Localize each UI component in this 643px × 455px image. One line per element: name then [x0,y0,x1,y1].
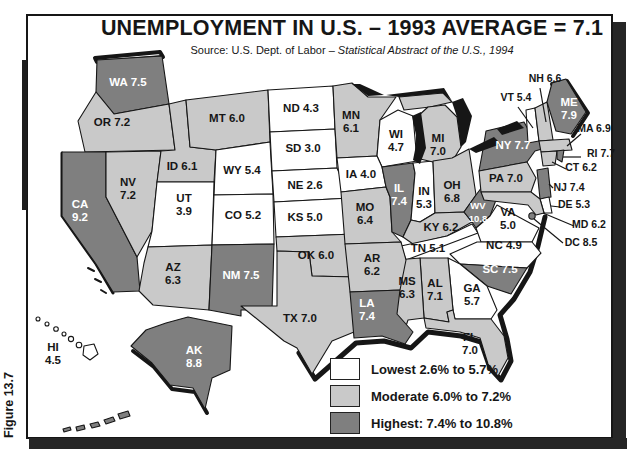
state-label-nd: ND 4.3 [283,102,319,114]
legend-label: Lowest 2.6% to 5.7% [371,362,498,377]
state-label-mn: MN6.1 [342,109,360,134]
state-label-wa: WA 7.5 [109,76,147,88]
state-label-ia: IA 4.0 [346,168,376,180]
state-label-ut: UT3.9 [176,192,192,217]
state-label-nm: NM 7.5 [222,269,260,281]
state-label-de: DE 5.3 [558,198,590,210]
state-label-ks: KS 5.0 [287,211,322,223]
state-label-tx: TX 7.0 [283,312,317,324]
us-choropleth-map: WA 7.5OR 7.2CA9.2NV7.2ID 6.1MT 6.0WY 5.4… [0,0,643,455]
state-ri [557,150,564,162]
state-label-wi: WI4.7 [388,128,404,153]
state-label-ky: KY 6.2 [424,221,459,233]
source-line: Source: U.S. Dept. of Labor – Statistica… [92,44,612,56]
state-nj [537,168,551,199]
legend-item-highest: Highest: 7.4% to 10.8% [330,412,513,434]
hi-island [45,322,49,326]
state-label-va: VA5.0 [500,206,516,231]
state-label-ok: OK 6.0 [298,249,334,261]
state-label-dc: DC 8.5 [565,236,598,248]
state-label-co: CO 5.2 [225,209,261,221]
hi-island [54,327,59,332]
legend-label: Highest: 7.4% to 10.8% [371,416,513,431]
state-label-me: ME7.9 [560,96,578,121]
state-label-ms: MS6.3 [398,275,416,300]
state-label-ct: CT 6.2 [565,161,597,173]
legend-item-lowest: Lowest 2.6% to 5.7% [330,358,513,380]
source-citation: Statistical Abstract of the U.S., 1994 [338,44,514,56]
state-dc [529,213,535,219]
state-label-sc: SC 7.5 [482,263,518,275]
state-label-mi: MI7.0 [430,132,446,157]
aleutian-islands [63,411,130,432]
map-legend: Lowest 2.6% to 5.7% Moderate 6.0% to 7.2… [330,358,513,439]
hi-big-island [83,344,98,360]
hi-island [36,317,40,321]
state-label-tn: TN 5.1 [411,242,446,254]
state-label-la: LA7.4 [359,297,376,322]
state-label-nj: NJ 7.4 [554,181,585,193]
state-label-md: MD 6.2 [572,218,606,230]
page: { "figure_label": "Figure 13.7", "title"… [0,0,643,455]
hi-island [68,336,73,341]
legend-item-moderate: Moderate 6.0% to 7.2% [330,385,513,407]
state-label-nh: NH 6.6 [529,72,562,84]
state-label-id: ID 6.1 [167,160,198,172]
legend-label: Moderate 6.0% to 7.2% [371,389,511,404]
state-label-ca: CA9.2 [72,198,89,223]
state-label-mt: MT 6.0 [209,112,245,124]
state-label-ri: RI 7.7 [587,147,615,159]
state-label-nc: NC 4.9 [486,239,522,251]
state-label-mo: MO6.4 [356,201,375,226]
state-label-hi: HI4.5 [45,341,62,366]
hi-island [62,332,66,336]
legend-swatch [330,412,360,434]
state-label-ma: MA 6.9 [577,122,611,134]
hi-island [76,342,82,348]
state-label-or: OR 7.2 [94,116,130,128]
state-label-fl: FL7.0 [462,331,478,356]
state-label-nv: NV7.2 [120,176,136,201]
state-label-ga: GA5.7 [463,282,480,307]
state-label-oh: OH6.8 [443,179,460,204]
figure-header: UNEMPLOYMENT IN U.S. – 1993 AVERAGE = 7.… [92,16,612,56]
state-label-az: AZ6.3 [165,261,181,286]
state-label-ny: NY 7.7 [496,139,531,151]
figure-number-label: Figure 13.7 [2,372,16,438]
state-label-vt: VT 5.4 [501,91,532,103]
state-label-sd: SD 3.0 [285,142,320,154]
state-label-ar: AR6.2 [364,252,381,277]
legend-swatch [330,358,360,380]
state-label-ak: AK8.8 [186,344,203,369]
legend-swatch [330,385,360,407]
state-label-pa: PA 7.0 [489,172,523,184]
source-prefix: Source: U.S. Dept. of Labor – [190,44,337,56]
state-label-wy: WY 5.4 [223,164,261,176]
state-label-in: IN5.3 [416,185,432,210]
leader-line-md [543,213,574,226]
figure-title: UNEMPLOYMENT IN U.S. – 1993 AVERAGE = 7.… [92,16,612,41]
state-label-ne: NE 2.6 [287,179,322,191]
state-label-al: AL7.1 [427,277,444,302]
